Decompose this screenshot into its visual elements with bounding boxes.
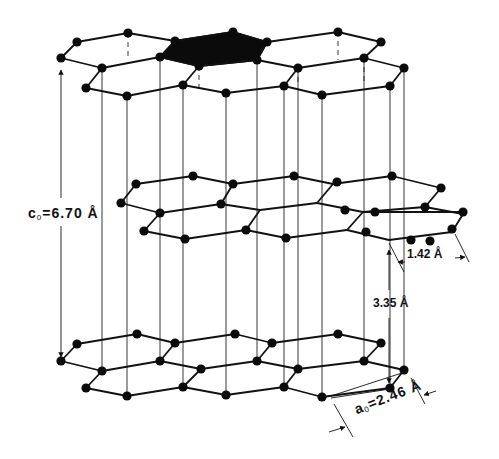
- bond: [347, 212, 363, 230]
- bond-ext-left: [389, 243, 404, 272]
- carbon-atom: [56, 53, 65, 62]
- carbon-atom: [267, 338, 276, 347]
- a0-ext-left: [334, 404, 353, 437]
- bond: [102, 361, 160, 371]
- carbon-atom: [317, 392, 326, 401]
- carbon-atom: [97, 366, 106, 375]
- carbon-atom: [221, 88, 230, 97]
- bond: [185, 230, 246, 239]
- carbon-atom: [387, 171, 396, 180]
- carbon-atom: [279, 382, 288, 391]
- carbon-atom: [81, 83, 90, 92]
- a0-arrow-right: [424, 391, 436, 395]
- carbon-atom: [281, 233, 290, 242]
- carbon-atom: [317, 90, 326, 99]
- carbon-atom: [122, 391, 131, 400]
- graphite-structure-diagram: c0=6.70 Å 1.42 Å 3.35 Å a0=2.46 Å: [0, 0, 499, 459]
- bond: [233, 176, 294, 184]
- carbon-atom: [178, 382, 187, 391]
- bond: [144, 231, 185, 239]
- carbon-atom: [178, 80, 187, 89]
- carbon-atom: [72, 339, 81, 348]
- carbon-atom: [361, 227, 370, 236]
- carbon-atom: [279, 81, 288, 90]
- interlayer-projection-lines: [102, 32, 404, 397]
- carbon-atom: [252, 55, 261, 64]
- carbon-atom: [123, 28, 132, 37]
- carbon-atom: [180, 234, 189, 243]
- carbon-atom: [155, 208, 164, 217]
- bond: [235, 334, 272, 343]
- carbon-atom: [289, 171, 298, 180]
- carbon-atom: [155, 52, 164, 61]
- carbon-atom: [262, 37, 271, 46]
- bond: [102, 57, 160, 68]
- carbon-atom: [230, 329, 239, 338]
- bond: [267, 32, 338, 42]
- carbon-atom: [436, 183, 445, 192]
- carbon-atom: [221, 390, 230, 399]
- bond: [425, 207, 463, 214]
- carbon-atom: [420, 202, 429, 211]
- carbon-atom: [359, 356, 368, 365]
- carbon-atom: [155, 356, 164, 365]
- bond: [260, 203, 317, 210]
- bond: [364, 361, 404, 370]
- carbon-atom: [447, 224, 456, 233]
- bond: [392, 176, 441, 188]
- bond: [127, 387, 183, 396]
- carbon-atom: [293, 63, 302, 72]
- bond: [257, 361, 298, 369]
- bond: [338, 334, 381, 343]
- carbon-atom: [170, 338, 179, 347]
- a0-arrow-left: [329, 427, 345, 432]
- bond: [338, 32, 381, 42]
- carbon-atom: [81, 383, 90, 392]
- carbon-atom: [170, 36, 179, 45]
- bond: [298, 58, 364, 68]
- bond: [136, 176, 193, 184]
- bond: [183, 85, 226, 93]
- bond: [284, 86, 322, 95]
- carbon-atom: [131, 179, 140, 188]
- bond: [128, 33, 175, 41]
- carbon-atom: [188, 171, 197, 180]
- bond: [86, 388, 127, 396]
- carbon-atom: [122, 91, 131, 100]
- carbon-atom: [228, 27, 237, 36]
- carbon-atom: [425, 236, 434, 245]
- bond: [317, 184, 333, 203]
- bond: [86, 88, 127, 96]
- lattice-drawing: [0, 0, 499, 459]
- carbon-atom: [406, 235, 415, 244]
- carbon-atom: [196, 364, 205, 373]
- carbon-atom: [72, 37, 81, 46]
- bond: [364, 58, 404, 68]
- carbon-atom: [333, 27, 342, 36]
- carbon-atom: [376, 338, 385, 347]
- bond: [226, 86, 284, 93]
- c0-symbol: c: [28, 205, 37, 221]
- bond: [137, 334, 175, 343]
- bond: [286, 230, 347, 238]
- bond: [61, 361, 102, 371]
- carbon-atom: [241, 225, 250, 234]
- carbon-atom: [139, 226, 148, 235]
- carbon-atom: [376, 37, 385, 46]
- bond: [61, 58, 102, 68]
- interlayer-spacing-label: 3.35 Å: [373, 296, 408, 310]
- bond: [272, 334, 338, 343]
- bond: [221, 204, 260, 210]
- carbon-atom: [293, 364, 302, 373]
- carbon-atom: [332, 177, 341, 186]
- carbon-bonds: [61, 32, 463, 397]
- bond: [77, 334, 137, 344]
- bond: [298, 361, 364, 369]
- bond: [294, 176, 333, 184]
- carbon-atoms: [56, 27, 467, 401]
- c0-label: c0=6.70 Å: [28, 205, 99, 221]
- carbon-atom: [194, 61, 203, 70]
- c0-subscript: 0: [37, 213, 42, 222]
- bond: [193, 176, 233, 184]
- carbon-atom: [56, 356, 65, 365]
